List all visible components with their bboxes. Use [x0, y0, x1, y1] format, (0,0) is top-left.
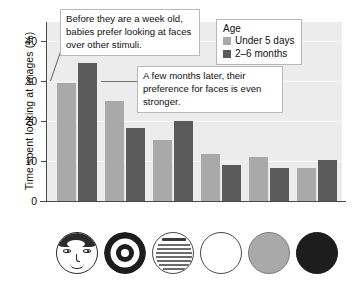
bar-white-2to6months [222, 165, 241, 201]
newsprint-text-line [159, 264, 189, 266]
y-tick-mark-30 [41, 81, 47, 82]
y-tick-mark-20 [41, 121, 47, 122]
stimulus-newsprint [152, 232, 194, 274]
light-gray-swatch-icon [223, 37, 231, 45]
legend-title: Age [223, 23, 294, 34]
bar-face-2to6months [78, 63, 97, 201]
bar-chart-figure: Time spent looking at images (%) 40 30 [0, 0, 355, 285]
y-tick-mark-40 [41, 41, 47, 42]
face-eye-left [63, 249, 71, 253]
bar-bullseye-2to6months [126, 128, 145, 201]
y-axis-line [46, 22, 47, 202]
legend-item-under-5-days: Under 5 days [223, 35, 294, 48]
newsprint-headline [162, 238, 186, 241]
face-mouth [70, 263, 84, 269]
legend-item-2-6-months: 2–6 months [223, 48, 294, 61]
face-pupil-left [67, 250, 69, 252]
stimulus-white-circle [200, 232, 242, 274]
y-tick-label-40: 40 [0, 36, 37, 47]
bar-newsprint-under5days [153, 140, 172, 201]
bar-white-under5days [201, 154, 220, 201]
white-circle-stimulus-icon [200, 232, 242, 274]
bar-gray-2to6months [270, 168, 289, 201]
stimulus-face [56, 232, 98, 274]
figure-footer-band [0, 279, 355, 285]
newsprint-text-line [156, 256, 192, 258]
newsprint-text-line [156, 252, 192, 254]
legend: Age Under 5 days 2–6 months [216, 19, 302, 65]
y-tick-mark-10 [41, 161, 47, 162]
annotation-callout-2: A few months later, their preference for… [137, 66, 283, 113]
stimulus-gray-circle [248, 232, 290, 274]
callout-leader-line-2 [101, 81, 138, 82]
stimulus-row [47, 232, 342, 278]
gray-circle-stimulus-icon [248, 232, 290, 274]
newsprint-text-line [157, 260, 191, 262]
bullseye-stimulus-icon [104, 232, 146, 274]
legend-label-2-6-months: 2–6 months [235, 48, 287, 61]
y-tick-label-0: 0 [0, 196, 37, 207]
y-tick-label-20: 20 [0, 116, 37, 127]
newsprint-stimulus-icon [152, 232, 194, 274]
face-pupil-right [87, 250, 89, 252]
stimulus-black-circle [296, 232, 338, 274]
bar-gray-under5days [249, 157, 268, 201]
bullseye-ring-center [121, 249, 129, 257]
x-axis-line [40, 201, 346, 202]
face-stimulus-icon [56, 232, 98, 274]
dark-gray-swatch-icon [223, 50, 231, 58]
bar-black-under5days [297, 168, 316, 201]
y-tick-label-30: 30 [0, 76, 37, 87]
bar-newsprint-2to6months [174, 121, 193, 201]
newsprint-text-line [163, 268, 185, 270]
annotation-callout-1: Before they are a week old, babies prefe… [60, 9, 200, 56]
y-tick-mark-0 [41, 201, 47, 202]
newsprint-text-line [158, 244, 190, 246]
bar-bullseye-under5days [105, 101, 124, 201]
face-hair-shape [56, 232, 98, 247]
face-nose [76, 254, 80, 262]
stimulus-bullseye [104, 232, 146, 274]
legend-label-under-5-days: Under 5 days [235, 35, 294, 48]
y-tick-label-10: 10 [0, 156, 37, 167]
black-circle-stimulus-icon [296, 232, 338, 274]
face-eye-right [83, 249, 91, 253]
bar-black-2to6months [318, 160, 337, 201]
bar-face-under5days [57, 83, 76, 201]
newsprint-text-line [157, 248, 191, 250]
